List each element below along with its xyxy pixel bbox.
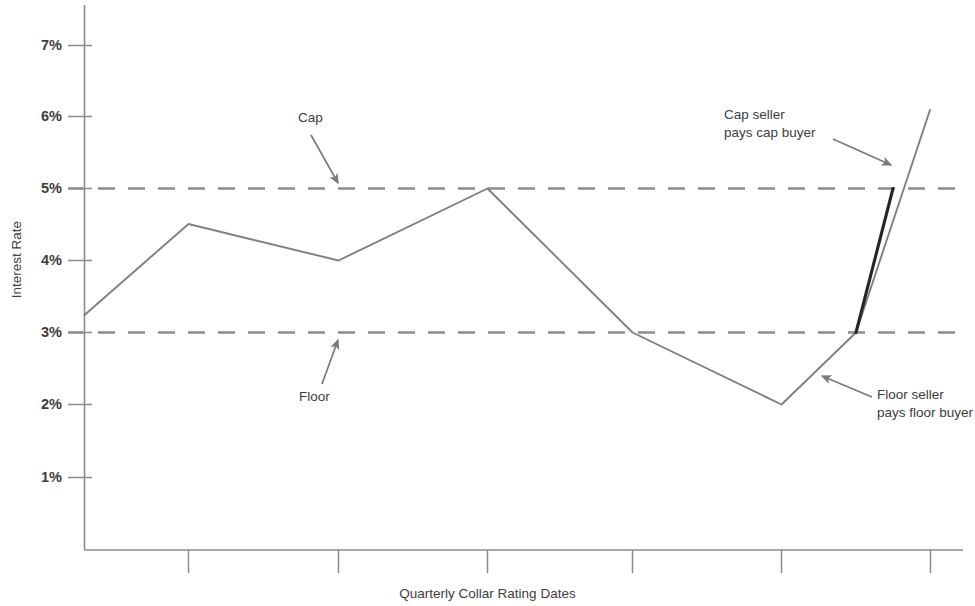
cap-annotation-arrow [311, 135, 338, 183]
y-tick-label-6: 6% [20, 109, 62, 124]
floor-seller-annotation-arrow [822, 376, 872, 397]
x-tick-marks [189, 550, 931, 573]
x-axis-title: Quarterly Collar Rating Dates [0, 586, 975, 601]
cap-seller-annotation-arrow [833, 139, 891, 165]
floor-annotation-arrow [322, 340, 338, 384]
cap-seller-annotation-label: Cap seller pays cap buyer [724, 106, 816, 142]
floor-seller-annotation-line2: pays floor buyer [877, 404, 973, 422]
y-tick-label-7: 7% [20, 38, 62, 53]
cap-annotation-label: Cap [298, 109, 323, 127]
floor-seller-annotation-label: Floor seller pays floor buyer [877, 386, 973, 422]
y-tick-label-5: 5% [20, 181, 62, 196]
cap-seller-annotation-line2: pays cap buyer [724, 124, 816, 142]
chart-plot-area [0, 0, 975, 606]
cap-seller-annotation-line1: Cap seller [724, 106, 816, 124]
floor-annotation-label: Floor [299, 388, 330, 406]
y-tick-label-2: 2% [20, 397, 62, 412]
y-axis-title: Interest Rate [9, 200, 24, 320]
cap-payoff-highlight-segment [856, 189, 893, 333]
interest-rate-line [85, 110, 931, 405]
floor-seller-annotation-line1: Floor seller [877, 386, 973, 404]
interest-rate-collar-chart: 7% 6% 5% 4% 3% 2% 1% Interest Rate Quart… [0, 0, 975, 606]
y-tick-marks [68, 46, 92, 478]
y-tick-label-3: 3% [20, 325, 62, 340]
y-tick-label-1: 1% [20, 470, 62, 485]
y-tick-label-4: 4% [20, 253, 62, 268]
